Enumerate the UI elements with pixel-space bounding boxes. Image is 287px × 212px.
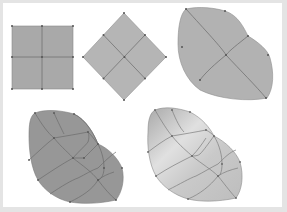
curved-patch-refined-flat <box>28 110 123 203</box>
figure-canvas <box>0 0 287 212</box>
curved-patch-refined-shaded <box>147 108 242 201</box>
diamond-patch <box>82 12 167 101</box>
curved-patch-coarse <box>178 8 273 100</box>
figure-frame <box>0 0 287 212</box>
square-patch <box>11 25 74 90</box>
